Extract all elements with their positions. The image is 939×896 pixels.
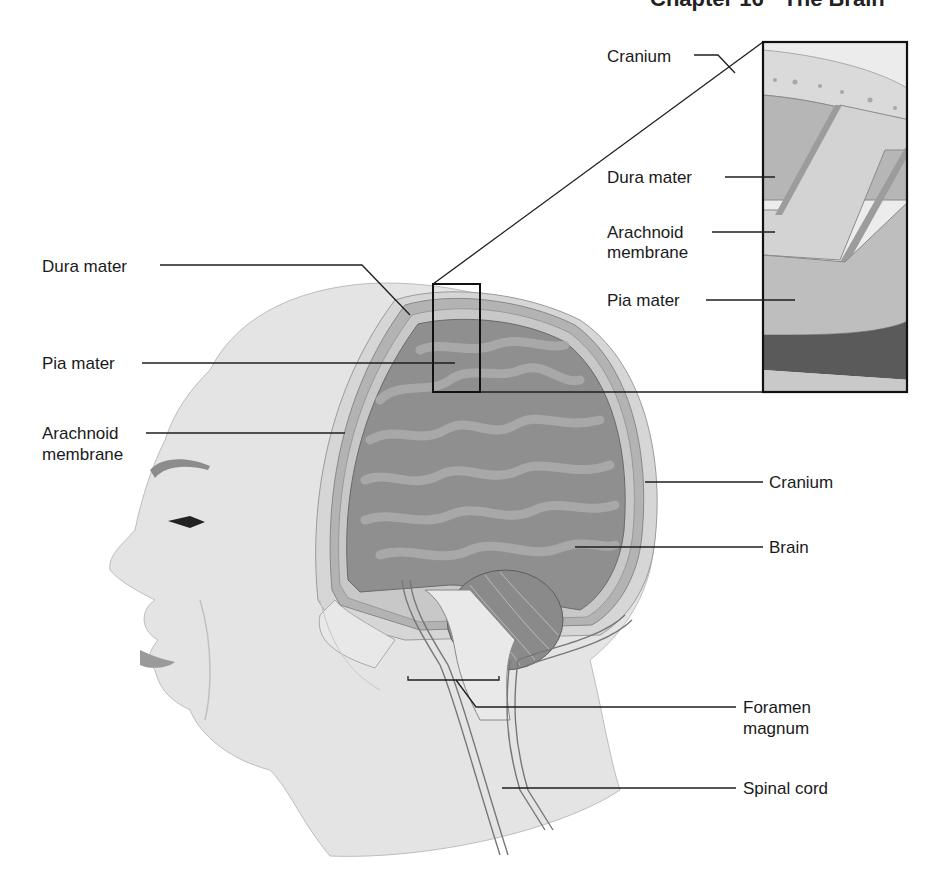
label-foramen-2: magnum	[743, 719, 809, 738]
running-header: Chapter 16 · The Brain	[650, 0, 885, 11]
label-brain: Brain	[769, 538, 809, 557]
label-foramen-1: Foramen	[743, 698, 811, 717]
label-inset-arachnoid-2: membrane	[607, 243, 688, 262]
label-inset-dura-mater: Dura mater	[607, 168, 692, 187]
projection-line-top	[433, 42, 763, 284]
label-arachnoid-1: Arachnoid	[42, 424, 119, 443]
label-pia-mater: Pia mater	[42, 354, 115, 373]
label-cranium: Cranium	[769, 473, 833, 492]
label-arachnoid-2: membrane	[42, 445, 123, 464]
label-inset-cranium: Cranium	[607, 47, 671, 66]
label-inset-pia-mater: Pia mater	[607, 291, 680, 310]
head-illustration	[110, 283, 657, 856]
label-spinal-cord: Spinal cord	[743, 779, 828, 798]
meninges-diagram: Chapter 16 · The Brain	[0, 0, 939, 896]
label-dura-mater: Dura mater	[42, 257, 127, 276]
label-inset-arachnoid-1: Arachnoid	[607, 223, 684, 242]
leader-inset-cranium	[694, 55, 735, 73]
